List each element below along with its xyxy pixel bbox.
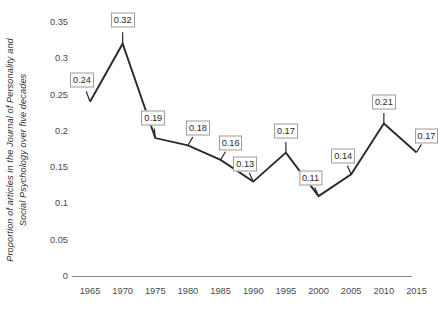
callout-leader-lines	[86, 32, 421, 196]
data-point-label: 0.13	[233, 156, 257, 171]
data-point-label: 0.17	[415, 128, 438, 143]
series-polyline	[90, 44, 417, 196]
callout-leader-line	[417, 144, 422, 152]
data-point-label: 0.21	[372, 94, 396, 109]
data-point-label: 0.24	[70, 72, 94, 87]
data-point-label: 0.32	[111, 12, 135, 27]
data-point-label: 0.16	[219, 135, 243, 150]
data-point-label: 0.17	[274, 123, 298, 138]
callout-leader-line	[188, 137, 193, 145]
data-point-label: 0.19	[141, 111, 165, 126]
data-point-label: 0.11	[299, 171, 322, 186]
callout-leader-line	[347, 166, 351, 174]
data-point-label: 0.18	[186, 121, 210, 136]
callout-leader-line	[221, 152, 226, 160]
data-point-label: 0.14	[331, 149, 355, 164]
callout-leader-line	[86, 91, 90, 101]
